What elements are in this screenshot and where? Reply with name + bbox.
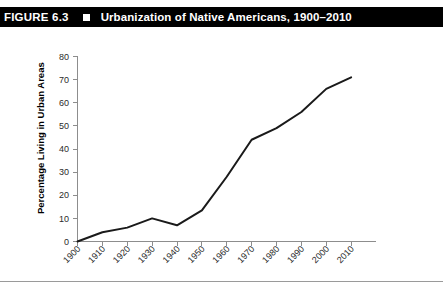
x-tick-label-1960: 1960: [210, 244, 231, 265]
x-tick-label-1920: 1920: [111, 244, 132, 265]
line-chart: Percentage Living in Urban Areas 0 10 20…: [0, 27, 443, 277]
x-tick-label-1930: 1930: [136, 244, 157, 265]
x-tick-label-1910: 1910: [86, 244, 107, 265]
y-tick-label-40: 40: [59, 144, 69, 154]
y-tick-label-10: 10: [59, 214, 69, 224]
footer-divider: [0, 281, 443, 282]
x-tick-label-1900: 1900: [61, 244, 82, 265]
x-axis-ticks: [78, 242, 352, 247]
x-tick-label-2010: 2010: [335, 244, 356, 265]
y-tick-label-20: 20: [59, 190, 69, 200]
y-tick-label-70: 70: [59, 75, 69, 85]
y-tick-label-30: 30: [59, 167, 69, 177]
x-tick-label-2000: 2000: [310, 244, 331, 265]
y-tick-label-50: 50: [59, 121, 69, 131]
y-axis-ticks: 0 10 20 30 40 50 60 70 80: [59, 52, 78, 247]
y-tick-label-60: 60: [59, 98, 69, 108]
y-axis-title: Percentage Living in Urban Areas: [35, 62, 46, 214]
x-tick-label-1950: 1950: [186, 244, 207, 265]
y-tick-label-0: 0: [64, 237, 69, 247]
x-axis-tick-labels: 1900191019201930194019501960197019801990…: [61, 244, 356, 265]
x-tick-label-1970: 1970: [235, 244, 256, 265]
figure-title-banner: FIGURE 6.3 Urbanization of Native Americ…: [0, 7, 443, 27]
y-tick-label-80: 80: [59, 52, 69, 62]
x-tick-label-1990: 1990: [285, 244, 306, 265]
square-bullet-icon: [83, 14, 90, 21]
figure-title-text: Urbanization of Native Americans, 1900–2…: [101, 11, 352, 23]
x-tick-label-1980: 1980: [260, 244, 281, 265]
data-series-line: [78, 77, 352, 241]
figure-number-label: FIGURE 6.3: [4, 11, 69, 23]
x-tick-label-1940: 1940: [161, 244, 182, 265]
chart-canvas: Percentage Living in Urban Areas 0 10 20…: [0, 27, 443, 277]
